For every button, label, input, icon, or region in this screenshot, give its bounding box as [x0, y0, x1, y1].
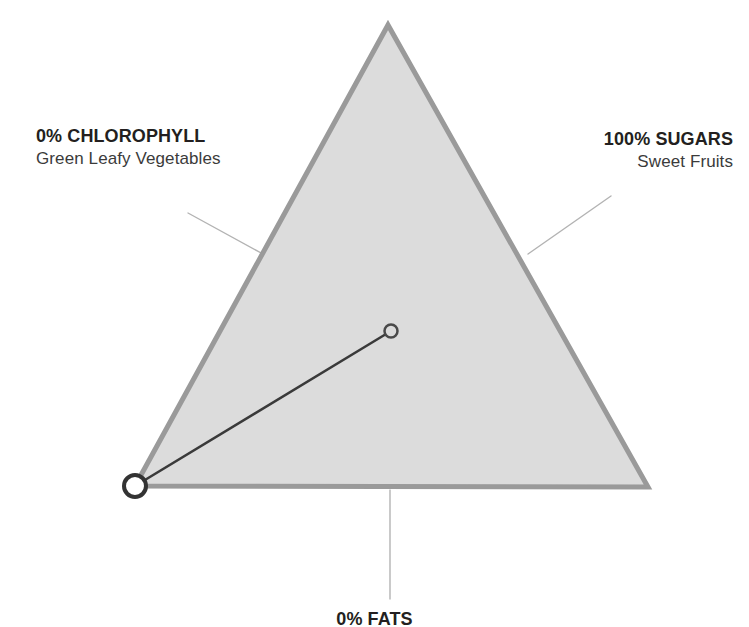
label-fats: 0% FATS	[0, 608, 749, 627]
label-sugars: 100% SUGARS Sweet Fruits	[604, 128, 733, 173]
leader-line-sugars	[528, 196, 611, 254]
label-chlorophyll-title: 0% CHLOROPHYLL	[36, 125, 221, 148]
ternary-diagram: 0% CHLOROPHYLL Green Leafy Vegetables 10…	[0, 0, 749, 627]
label-fats-title: 0% FATS	[0, 608, 749, 627]
ternary-plot-graphic	[0, 0, 749, 627]
label-sugars-title: 100% SUGARS	[604, 128, 733, 151]
label-sugars-subtitle: Sweet Fruits	[604, 151, 733, 173]
leader-line-chlorophyll	[188, 213, 263, 254]
label-chlorophyll-subtitle: Green Leafy Vegetables	[36, 148, 221, 170]
label-chlorophyll: 0% CHLOROPHYLL Green Leafy Vegetables	[36, 125, 221, 170]
origin-marker[interactable]	[124, 475, 146, 497]
ternary-triangle-shape	[135, 25, 648, 487]
endpoint-marker[interactable]	[385, 325, 398, 338]
